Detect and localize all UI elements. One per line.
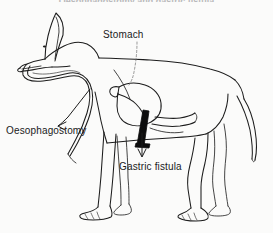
figure-root: Oesophagostomy and gastric fistula <box>0 0 273 233</box>
oesophagostomy-arrow-line <box>58 89 90 126</box>
chest-front <box>95 92 107 143</box>
tail-inner <box>237 96 252 159</box>
front-paw-near <box>80 206 112 220</box>
belly-line <box>107 134 206 143</box>
stomach-lesser-curvature <box>118 94 145 120</box>
stomach-leader <box>129 42 137 85</box>
oesophagostomy-arrow <box>58 89 90 130</box>
rump-line <box>235 80 244 99</box>
front-leg-near-back-edge <box>110 134 116 206</box>
ear-outer <box>45 13 63 61</box>
fistula-tube-shape <box>137 110 149 146</box>
lower-jaw <box>23 67 52 71</box>
hind-leg-near-front-edge <box>188 138 195 208</box>
shoulder-curve <box>114 70 130 99</box>
cheek <box>52 66 70 67</box>
dorsal-line <box>99 58 235 80</box>
stomach-body <box>117 83 161 125</box>
hind-paw-far <box>209 206 231 216</box>
oesophagus-tail-end <box>68 154 76 163</box>
oesophageal-loop <box>23 64 93 163</box>
label-gastric-fistula: Gastric fistula <box>119 161 182 172</box>
front-paw-far <box>114 204 132 215</box>
front-paw-near-toes <box>85 212 100 219</box>
eye <box>43 46 46 48</box>
stomach-leader-line <box>129 42 137 85</box>
hind-paw-near-toes <box>182 213 197 220</box>
muzzle-top <box>20 59 45 68</box>
hind-leg-near-back-edge <box>201 133 208 208</box>
tail <box>237 96 257 162</box>
stomach-organ <box>110 83 197 133</box>
hind-paw-near <box>178 208 208 221</box>
skull-top <box>45 42 99 59</box>
duodenum-tip <box>195 113 197 122</box>
front-leg-near-front-edge <box>98 132 104 207</box>
dog-head <box>18 13 99 72</box>
hind-leg-far-front-edge <box>213 131 216 206</box>
label-stomach: Stomach <box>103 29 144 40</box>
duodenum-lower <box>152 122 195 126</box>
stomach-cardia <box>110 87 119 97</box>
hind-leg-far-back-edge <box>224 124 228 206</box>
tail-tip <box>252 159 255 162</box>
label-oesophagostomy: Oesophagostomy <box>6 125 86 136</box>
intestine-sweep <box>150 128 183 133</box>
pylorus-duodenum <box>155 113 195 118</box>
oesophagus-inner-edge <box>28 66 93 156</box>
